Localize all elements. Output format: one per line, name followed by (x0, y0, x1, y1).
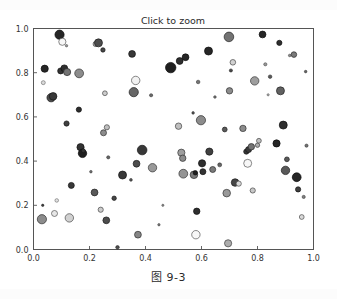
scatter-point[interactable] (180, 155, 186, 161)
scatter-point[interactable] (268, 75, 272, 79)
scatter-point[interactable] (257, 138, 262, 143)
scatter-point[interactable] (133, 160, 140, 167)
scatter-point[interactable] (250, 188, 255, 193)
scatter-point[interactable] (176, 58, 183, 65)
scatter-point[interactable] (148, 164, 156, 172)
scatter-point[interactable] (65, 214, 73, 222)
scatter-point[interactable] (226, 88, 232, 94)
scatter-point[interactable] (255, 143, 259, 147)
x-tick-label: 0.2 (83, 254, 96, 263)
scatter-point[interactable] (225, 240, 232, 247)
scatter-point[interactable] (90, 170, 93, 173)
scatter-point[interactable] (107, 156, 110, 159)
scatter-point[interactable] (198, 160, 205, 167)
scatter-point[interactable] (210, 167, 216, 173)
scatter-point[interactable] (41, 65, 48, 72)
scatter-point[interactable] (76, 107, 81, 112)
scatter-point[interactable] (281, 166, 289, 174)
scatter-point[interactable] (240, 125, 246, 131)
scatter-point[interactable] (103, 217, 110, 224)
scatter-point[interactable] (103, 91, 108, 96)
scatter-point[interactable] (285, 157, 290, 162)
scatter-point[interactable] (193, 171, 197, 175)
scatter-point[interactable] (130, 178, 133, 181)
scatter-point[interactable] (94, 39, 102, 47)
scatter-point[interactable] (200, 169, 206, 175)
scatter-point[interactable] (251, 77, 259, 85)
scatter-point[interactable] (299, 215, 304, 220)
scatter-point[interactable] (302, 195, 305, 198)
scatter-point[interactable] (276, 87, 284, 95)
scatter-point[interactable] (196, 80, 200, 84)
scatter-point[interactable] (304, 70, 307, 73)
scatter-point[interactable] (119, 171, 127, 179)
scatter-point[interactable] (64, 121, 69, 126)
scatter-point[interactable] (55, 199, 59, 203)
scatter-point[interactable] (175, 123, 181, 129)
scatter-point[interactable] (42, 204, 44, 206)
scatter-point[interactable] (267, 94, 269, 96)
scatter-point[interactable] (101, 48, 105, 52)
scatter-point[interactable] (91, 189, 98, 196)
scatter-point[interactable] (162, 204, 164, 206)
scatter-point[interactable] (137, 145, 147, 155)
scatter-point[interactable] (236, 181, 241, 186)
scatter-point[interactable] (129, 88, 138, 97)
scatter-point[interactable] (273, 140, 280, 147)
scatter-point[interactable] (116, 245, 120, 249)
scatter-point[interactable] (52, 210, 58, 216)
scatter-point[interactable] (214, 96, 217, 99)
scatter-point[interactable] (292, 173, 301, 182)
scatter-point[interactable] (229, 69, 232, 72)
scatter-point[interactable] (112, 196, 116, 200)
scatter-point[interactable] (244, 159, 252, 167)
scatter-point[interactable] (205, 47, 213, 55)
scatter-point[interactable] (179, 169, 188, 178)
scatter-point[interactable] (291, 52, 297, 58)
scatter-point[interactable] (129, 51, 136, 58)
x-tick-label: 0.8 (251, 254, 264, 263)
scatter-point[interactable] (196, 116, 205, 125)
scatter-point[interactable] (132, 76, 140, 84)
scatter-point[interactable] (41, 81, 45, 85)
scatter-point[interactable] (230, 60, 236, 66)
scatter-point[interactable] (218, 163, 222, 167)
scatter-point[interactable] (296, 187, 301, 192)
scatter-point[interactable] (150, 94, 153, 97)
plot-title: Click to zoom (141, 15, 205, 26)
scatter-point[interactable] (224, 32, 234, 42)
scatter-point[interactable] (98, 207, 103, 212)
scatter-point[interactable] (135, 231, 142, 238)
scatter-point[interactable] (288, 54, 291, 57)
scatter-point[interactable] (194, 208, 200, 214)
scatter-point[interactable] (222, 127, 227, 132)
scatter-point[interactable] (158, 224, 160, 226)
scatter-point[interactable] (68, 182, 74, 188)
scatter-point[interactable] (104, 125, 109, 130)
scatter-point[interactable] (81, 149, 85, 153)
scatter-point[interactable] (65, 45, 67, 47)
scatter-point[interactable] (206, 148, 213, 155)
scatter-point[interactable] (259, 31, 266, 38)
scatter-point[interactable] (37, 215, 46, 224)
scatter-point[interactable] (182, 54, 189, 61)
scatter-point[interactable] (223, 189, 231, 197)
scatter-point[interactable] (101, 130, 107, 136)
figure-caption: 图 9-3 (0, 268, 337, 284)
scatter-plot[interactable]: Click to zoom 0.00.20.40.60.81.0 0.00.20… (0, 0, 337, 299)
x-tick-label: 0.0 (27, 254, 40, 263)
scatter-point[interactable] (192, 230, 200, 238)
scatter-point[interactable] (248, 144, 254, 150)
scatter-point[interactable] (264, 63, 267, 66)
scatter-point[interactable] (279, 121, 287, 129)
scatter-point[interactable] (59, 38, 66, 45)
y-tick-label: 0.2 (16, 201, 29, 210)
scatter-point[interactable] (75, 69, 84, 78)
scatter-point[interactable] (192, 112, 195, 115)
scatter-point[interactable] (305, 144, 308, 147)
scatter-point[interactable] (277, 40, 282, 45)
scatter-point[interactable] (49, 93, 57, 101)
x-tick-label: 0.4 (139, 254, 152, 263)
scatter-point[interactable] (166, 62, 176, 72)
scatter-point[interactable] (64, 68, 71, 75)
